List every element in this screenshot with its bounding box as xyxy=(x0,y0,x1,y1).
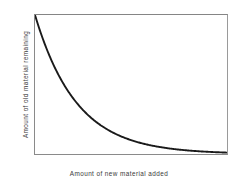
y-axis-label: Amount of old material remaining xyxy=(20,14,32,155)
decay-curve xyxy=(35,15,227,154)
plot-area xyxy=(34,14,228,155)
decay-curve-path xyxy=(35,15,227,153)
chart-figure: Amount of old material remaining Amount … xyxy=(0,0,238,184)
x-axis-label: Amount of new material added xyxy=(0,170,238,177)
